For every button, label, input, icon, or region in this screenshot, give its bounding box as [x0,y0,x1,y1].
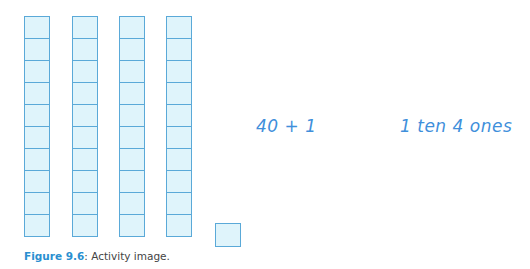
unit-cube [24,170,50,193]
ten-rod [119,16,145,237]
caption-label: Figure 9.6 [24,250,84,262]
unit-cube [166,170,192,193]
unit-cube [24,148,50,171]
unit-cube [24,126,50,149]
expression-forty-plus-one: 40 + 1 [256,116,317,136]
unit-cube [166,148,192,171]
unit-cube [166,82,192,105]
unit-cube [119,170,145,193]
ten-rod [166,16,192,237]
unit-cube [166,192,192,215]
ten-rod [72,16,98,237]
unit-cube [119,214,145,237]
unit-cube [119,126,145,149]
unit-cube [119,16,145,39]
unit-cube [24,214,50,237]
unit-cube [166,214,192,237]
unit-cube [119,82,145,105]
unit-cube [119,104,145,127]
unit-cube [72,38,98,61]
unit-cube [119,192,145,215]
unit-cube [119,60,145,83]
unit-cube [24,16,50,39]
figure-caption: Figure 9.6: Activity image. [24,250,170,262]
unit-cube [72,148,98,171]
unit-cube [24,82,50,105]
unit-cube [24,192,50,215]
unit-cube [72,170,98,193]
unit-cube [24,104,50,127]
unit-cube [166,38,192,61]
unit-cube [72,126,98,149]
unit-cube [166,126,192,149]
unit-cube [72,16,98,39]
ten-rod [24,16,50,237]
unit-cube [72,214,98,237]
unit-cube [72,192,98,215]
expression-ten-ones: 1 ten 4 ones [400,116,512,136]
unit-cube [24,60,50,83]
unit-cube [166,104,192,127]
unit-cube [72,104,98,127]
unit-cube [72,60,98,83]
unit-cube [72,82,98,105]
unit-cube [119,148,145,171]
unit-cube [166,16,192,39]
unit-cube [166,60,192,83]
caption-text: : Activity image. [84,250,170,262]
ones-cube [215,223,241,247]
unit-cube [24,38,50,61]
unit-cube [119,38,145,61]
